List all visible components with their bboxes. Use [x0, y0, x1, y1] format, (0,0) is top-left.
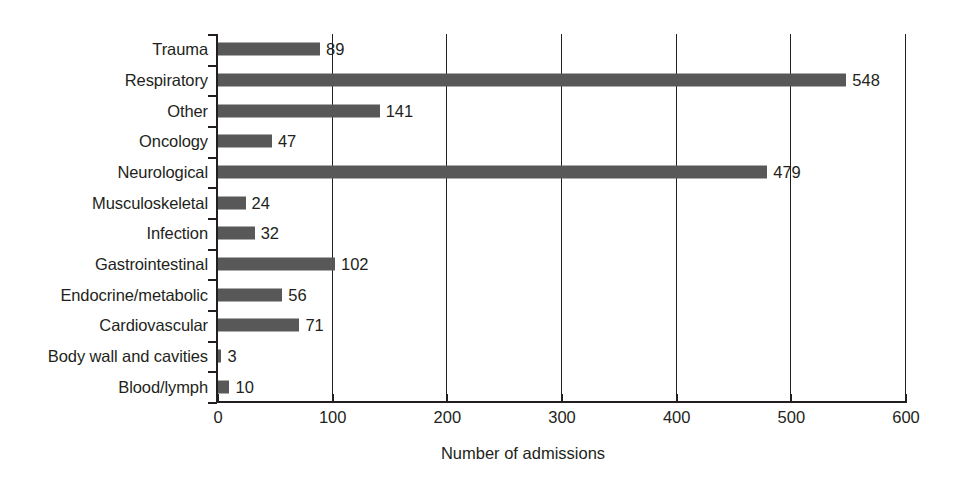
bar-respiratory [218, 73, 846, 86]
bar-row: Trauma89 [0, 34, 954, 65]
x-tick-label-500: 500 [778, 408, 806, 427]
category-label-blood-lymph: Blood/lymph [118, 377, 208, 396]
bar-value-label: 24 [252, 193, 270, 212]
x-tick-label-300: 300 [548, 408, 576, 427]
y-tick-12 [208, 402, 217, 404]
bar-row: Gastrointestinal102 [0, 249, 954, 280]
bar-value-label: 141 [386, 101, 414, 120]
bar-value-label: 89 [326, 40, 344, 59]
bar-row: Infection32 [0, 218, 954, 249]
bar-row: Endocrine/metabolic56 [0, 279, 954, 310]
category-label-neurological: Neurological [117, 162, 208, 181]
bar-row: Body wall and cavities3 [0, 341, 954, 372]
category-label-endocrine-metabolic: Endocrine/metabolic [60, 285, 208, 304]
category-label-infection: Infection [147, 224, 208, 243]
bar-row: Oncology47 [0, 126, 954, 157]
category-label-musculoskeletal: Musculoskeletal [92, 193, 208, 212]
bar-value-label: 548 [852, 70, 880, 89]
chart-screenshot: Trauma89Respiratory548Other141Oncology47… [0, 0, 954, 487]
bar-neurological [218, 165, 767, 178]
x-tick-label-100: 100 [319, 408, 347, 427]
bar-musculoskeletal [218, 196, 246, 209]
bar-value-label: 32 [261, 224, 279, 243]
bar-body-wall-and-cavities [218, 349, 221, 362]
x-tick-label-0: 0 [213, 408, 222, 427]
bar-oncology [218, 135, 272, 148]
x-axis-title-text: Number of admissions [441, 444, 605, 462]
x-axis-title: Number of admissions [0, 444, 954, 463]
bar-blood-lymph [218, 380, 229, 393]
category-label-oncology: Oncology [139, 132, 208, 151]
bar-row: Respiratory548 [0, 65, 954, 96]
category-label-respiratory: Respiratory [125, 70, 208, 89]
bar-other [218, 104, 380, 117]
bar-row: Musculoskeletal24 [0, 187, 954, 218]
bar-row: Blood/lymph10 [0, 371, 954, 402]
bar-value-label: 10 [235, 377, 253, 396]
bar-value-label: 56 [288, 285, 306, 304]
bar-value-label: 479 [773, 162, 801, 181]
category-label-other: Other [167, 101, 208, 120]
bar-gastrointestinal [218, 257, 335, 270]
bar-endocrine-metabolic [218, 288, 282, 301]
bar-row: Other141 [0, 95, 954, 126]
bar-value-label: 102 [341, 254, 369, 273]
x-tick-label-600: 600 [892, 408, 920, 427]
bar-row: Cardiovascular71 [0, 310, 954, 341]
bar-value-label: 71 [305, 316, 323, 335]
bar-value-label: 3 [227, 346, 236, 365]
bar-row: Neurological479 [0, 157, 954, 188]
category-label-trauma: Trauma [152, 40, 208, 59]
x-tick-label-200: 200 [434, 408, 462, 427]
category-label-cardiovascular: Cardiovascular [99, 316, 208, 335]
bar-infection [218, 227, 255, 240]
x-tick-label-400: 400 [663, 408, 691, 427]
bar-cardiovascular [218, 319, 299, 332]
category-label-gastrointestinal: Gastrointestinal [95, 254, 208, 273]
category-label-body-wall-and-cavities: Body wall and cavities [48, 346, 208, 365]
bar-value-label: 47 [278, 132, 296, 151]
bar-trauma [218, 43, 320, 56]
bar-chart: Trauma89Respiratory548Other141Oncology47… [0, 0, 954, 487]
